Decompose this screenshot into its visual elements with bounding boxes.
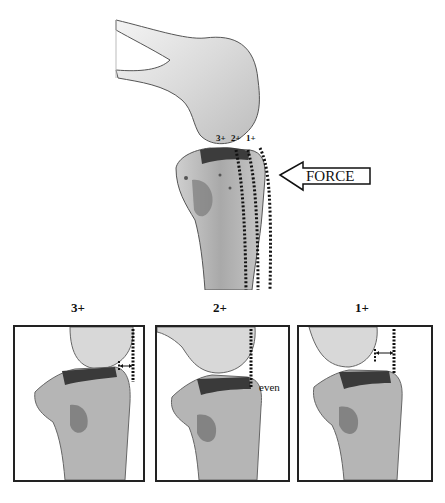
- panel-title-1plus: 1+: [342, 300, 382, 316]
- panel-1plus: [297, 325, 433, 482]
- force-label: FORCE: [306, 168, 354, 185]
- femur: [116, 20, 259, 144]
- even-annotation: even: [259, 381, 280, 393]
- panel-title-3plus: 3+: [58, 300, 98, 316]
- panel-3plus: [13, 325, 145, 482]
- tibia: [176, 148, 265, 290]
- grade-label-1plus: 1+: [246, 133, 256, 143]
- grade-label-2plus: 2+: [231, 133, 241, 143]
- main-illustration: 3+ 2+ 1+ FORCE: [0, 0, 445, 290]
- grade-label-3plus: 3+: [216, 133, 226, 143]
- panel-2plus: even: [155, 325, 290, 482]
- bone-drawing: [0, 0, 445, 290]
- panel-title-2plus: 2+: [200, 300, 240, 316]
